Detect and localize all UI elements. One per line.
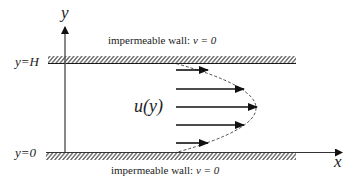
velocity-profile-curve <box>176 64 256 153</box>
x-axis-label: x <box>333 152 342 171</box>
profile-label: u(y) <box>134 96 163 117</box>
top-wall <box>48 56 296 64</box>
bottom-wall-caption: impermeable wall: v = 0 <box>111 164 220 176</box>
top-wall-position-label: y=H <box>13 54 40 69</box>
bottom-wall <box>46 153 296 160</box>
top-wall-caption: impermeable wall: v = 0 <box>108 34 217 46</box>
velocity-arrows <box>176 70 257 143</box>
bottom-wall-position-label: y=0 <box>13 145 37 160</box>
y-axis-label: y <box>59 3 69 22</box>
channel-flow-diagram: y x y=H y=0 u(y) impermeable wall: v = 0… <box>0 0 354 188</box>
